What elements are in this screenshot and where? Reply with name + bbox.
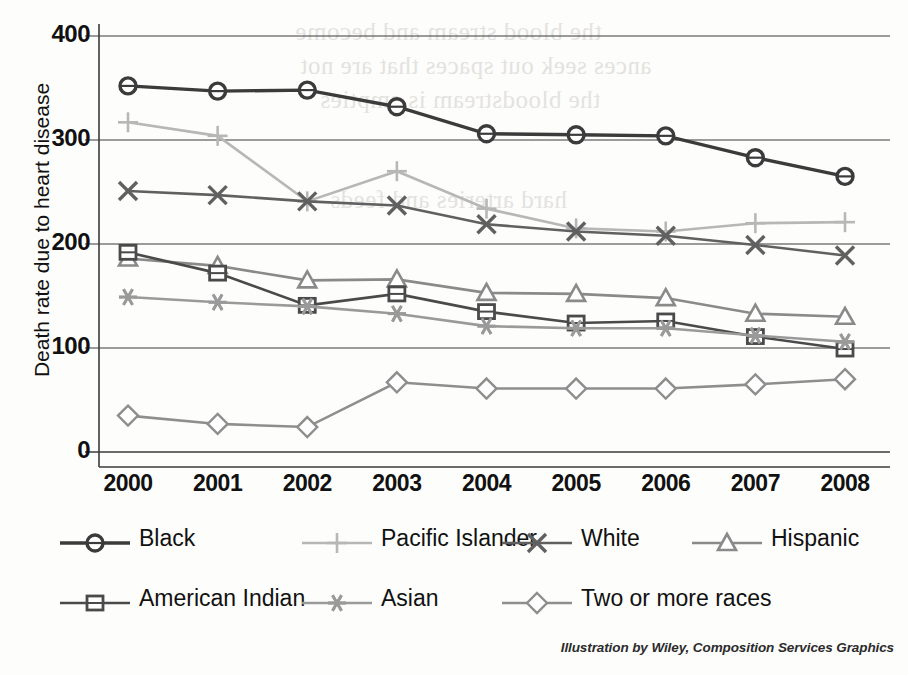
asterisk-marker	[478, 318, 496, 334]
legend-item-white[interactable]: White	[500, 526, 640, 558]
plot-area: 4003002001000 20002001200220032004200520…	[0, 0, 908, 500]
x-tick-label: 2005	[531, 470, 621, 497]
series-two-or-more-races	[118, 369, 855, 437]
diamond-marker	[387, 372, 407, 392]
diamond-marker	[566, 379, 586, 399]
plus-marker	[387, 161, 407, 181]
y-tick-label: 100	[18, 332, 90, 360]
legend-label: Asian	[381, 586, 439, 612]
asterisk-marker	[388, 306, 406, 322]
x-tick-label: 2003	[352, 470, 442, 497]
circle-marker	[120, 78, 136, 94]
triangle-marker	[690, 528, 764, 558]
plus-marker	[327, 533, 347, 553]
diamond-marker	[297, 417, 317, 437]
y-tick-label: 400	[18, 20, 90, 48]
diamond-marker	[208, 414, 228, 434]
plus-marker	[208, 126, 228, 146]
chart-page: the blood stream and become ances seek o…	[0, 0, 908, 675]
plus-marker	[118, 112, 138, 132]
legend-label: Two or more races	[581, 586, 771, 612]
legend-label: American Indian	[139, 586, 305, 612]
illustration-credit: Illustration by Wiley, Composition Servi…	[561, 640, 894, 655]
x-tick-label: 2001	[173, 470, 263, 497]
legend-label: Hispanic	[771, 526, 859, 552]
diamond-marker	[656, 379, 676, 399]
diamond-marker	[500, 588, 574, 618]
legend-label: White	[581, 526, 640, 552]
y-tick-label: 0	[18, 436, 90, 464]
diamond-marker	[745, 374, 765, 394]
data-series-layer	[118, 78, 855, 437]
line-chart-svg	[0, 0, 908, 500]
x-tick-label: 2008	[800, 470, 890, 497]
circle-marker	[210, 83, 226, 99]
diamond-marker	[835, 369, 855, 389]
diamond-marker	[118, 406, 138, 426]
y-axis-ticks: 4003002001000	[18, 0, 90, 500]
circle-marker	[658, 128, 674, 144]
square-marker	[210, 266, 226, 280]
plus-marker	[300, 528, 374, 558]
legend-label: Black	[139, 526, 195, 552]
x-tick-label: 2002	[262, 470, 352, 497]
circle-marker	[389, 99, 405, 115]
series-black	[120, 78, 853, 184]
diamond-marker	[527, 593, 547, 613]
circle-marker	[58, 528, 132, 558]
x-tick-label: 2004	[442, 470, 532, 497]
diamond-marker	[477, 379, 497, 399]
y-tick-label: 200	[18, 228, 90, 256]
y-tick-label: 300	[18, 124, 90, 152]
plus-marker	[745, 213, 765, 233]
plus-marker	[656, 222, 676, 242]
square-marker	[120, 245, 136, 259]
x-axis-ticks: 200020012002200320042005200620072008	[0, 470, 908, 504]
asterisk-marker	[119, 289, 137, 305]
circle-marker	[479, 126, 495, 142]
circle-marker	[837, 168, 853, 184]
legend-item-two-or-more-races[interactable]: Two or more races	[500, 586, 771, 618]
legend-item-hispanic[interactable]: Hispanic	[690, 526, 859, 558]
square-marker	[87, 596, 103, 610]
y-axis-title: Death rate due to heart disease	[30, 20, 54, 440]
square-marker	[479, 305, 495, 319]
chart-legend: BlackPacific IslanderWhiteHispanicAmeric…	[0, 518, 908, 628]
circle-marker	[87, 535, 103, 551]
asterisk-marker	[300, 588, 374, 618]
x-tick-label: 2006	[621, 470, 711, 497]
plus-marker	[835, 212, 855, 232]
x-marker	[500, 528, 574, 558]
plus-marker	[566, 218, 586, 238]
asterisk-marker	[328, 595, 346, 611]
circle-marker	[568, 127, 584, 143]
legend-item-asian[interactable]: Asian	[300, 586, 439, 618]
square-marker	[389, 287, 405, 301]
legend-item-american-indian[interactable]: American Indian	[58, 586, 305, 618]
square-marker	[58, 588, 132, 618]
circle-marker	[747, 150, 763, 166]
legend-item-black[interactable]: Black	[58, 526, 195, 558]
asterisk-marker	[209, 294, 227, 310]
x-tick-label: 2000	[83, 470, 173, 497]
x-tick-label: 2007	[710, 470, 800, 497]
circle-marker	[299, 82, 315, 98]
